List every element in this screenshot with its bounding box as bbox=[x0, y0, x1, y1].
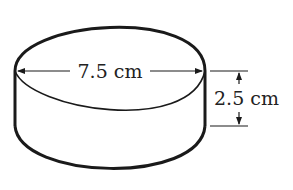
arrow-right-icon bbox=[195, 68, 203, 74]
cylinder-diagram: 7.5 cm 2.5 cm bbox=[0, 0, 293, 190]
diameter-label: 7.5 cm bbox=[78, 60, 143, 82]
arrow-up-icon bbox=[236, 72, 242, 80]
bottom-ellipse bbox=[15, 126, 205, 168]
arrow-down-icon bbox=[236, 117, 242, 125]
arrow-left-icon bbox=[17, 68, 25, 74]
height-label: 2.5 cm bbox=[214, 87, 279, 109]
